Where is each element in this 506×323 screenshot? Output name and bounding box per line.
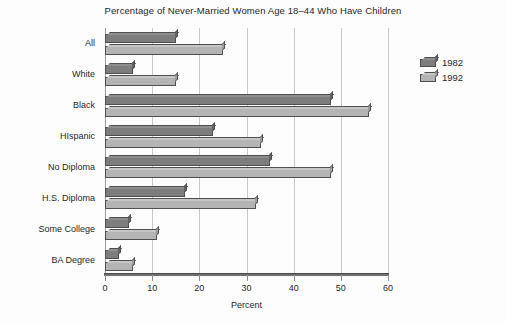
legend-label-1992: 1992 bbox=[442, 72, 463, 83]
gridline bbox=[388, 28, 389, 275]
bar-1992-some-college bbox=[105, 231, 157, 240]
gridline bbox=[341, 28, 342, 275]
legend-swatch-icon-1992 bbox=[420, 74, 436, 82]
x-tick-label: 10 bbox=[147, 283, 157, 293]
legend-item-1992: 1992 bbox=[420, 70, 463, 85]
x-tick bbox=[388, 275, 389, 281]
bar-1982-h-s-diploma bbox=[105, 188, 185, 197]
gridline bbox=[247, 28, 248, 275]
x-axis-title: Percent bbox=[105, 300, 388, 310]
bar-1982-all bbox=[105, 34, 176, 43]
x-tick bbox=[199, 275, 200, 281]
bar-1982-hispanic bbox=[105, 127, 213, 136]
bar-1982-white bbox=[105, 65, 133, 74]
x-tick-label: 50 bbox=[336, 283, 346, 293]
category-label-hispanic: HIspanic bbox=[60, 131, 95, 141]
category-label-black: Black bbox=[73, 100, 95, 110]
legend-label-1982: 1982 bbox=[442, 57, 463, 68]
x-tick bbox=[247, 275, 248, 281]
category-label-all: All bbox=[85, 38, 95, 48]
legend-item-1982: 1982 bbox=[420, 55, 463, 70]
category-label-no-diploma: No Diploma bbox=[48, 162, 95, 172]
x-tick bbox=[105, 275, 106, 281]
x-tick-label: 0 bbox=[102, 283, 107, 293]
bar-1992-hispanic bbox=[105, 139, 261, 148]
gridline bbox=[294, 28, 295, 275]
legend: 1982 1992 bbox=[420, 55, 463, 85]
x-tick bbox=[152, 275, 153, 281]
category-label-some-college: Some College bbox=[38, 224, 95, 234]
x-tick-label: 30 bbox=[241, 283, 251, 293]
x-tick bbox=[294, 275, 295, 281]
x-tick-label: 20 bbox=[194, 283, 204, 293]
bar-1982-black bbox=[105, 96, 331, 105]
x-tick-label: 40 bbox=[289, 283, 299, 293]
bar-1992-h-s-diploma bbox=[105, 200, 256, 209]
chart-title: Percentage of Never-Married Women Age 18… bbox=[0, 5, 506, 16]
bar-1992-all bbox=[105, 46, 223, 55]
bar-1992-black bbox=[105, 108, 369, 117]
plot-area: 0102030405060 Percent bbox=[105, 28, 388, 275]
gridline bbox=[199, 28, 200, 275]
category-label-h-s-diploma: H.S. Diploma bbox=[42, 193, 95, 203]
bar-1982-ba-degree bbox=[105, 250, 119, 259]
bar-chart: Percentage of Never-Married Women Age 18… bbox=[0, 0, 506, 323]
bar-1982-some-college bbox=[105, 219, 129, 228]
bar-1992-ba-degree bbox=[105, 262, 133, 271]
x-tick bbox=[341, 275, 342, 281]
category-label-white: White bbox=[72, 69, 95, 79]
legend-swatch-icon-1982 bbox=[420, 59, 436, 67]
category-label-ba-degree: BA Degree bbox=[51, 255, 95, 265]
x-tick-label: 60 bbox=[383, 283, 393, 293]
bar-1992-white bbox=[105, 77, 176, 86]
bar-1992-no-diploma bbox=[105, 169, 331, 178]
bar-1982-no-diploma bbox=[105, 157, 270, 166]
